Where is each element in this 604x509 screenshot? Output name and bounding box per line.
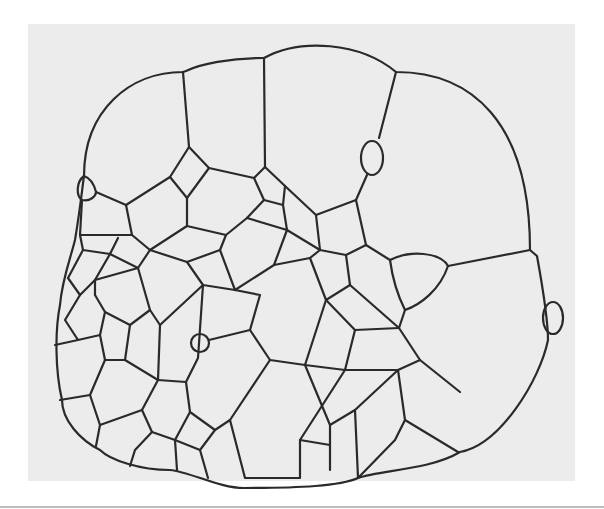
- wall: [287, 230, 320, 250]
- wall: [250, 300, 326, 365]
- wall: [96, 177, 170, 205]
- wall: [110, 250, 150, 268]
- wall: [405, 420, 458, 452]
- wall: [346, 245, 366, 285]
- wall: [355, 410, 358, 478]
- wall: [230, 370, 345, 478]
- wall: [345, 328, 420, 370]
- wall: [55, 340, 78, 345]
- wall: [186, 360, 270, 430]
- wall: [130, 432, 152, 466]
- wall: [209, 167, 265, 178]
- wall: [100, 325, 130, 360]
- wall: [183, 72, 189, 147]
- wall: [80, 205, 132, 235]
- wall: [350, 285, 399, 328]
- wall: [420, 360, 460, 392]
- outer-boundary: [56, 46, 548, 488]
- foam-cell-diagram: [0, 0, 604, 509]
- wall: [379, 72, 396, 138]
- wall: [96, 425, 100, 446]
- wall: [150, 235, 226, 262]
- wall: [356, 200, 366, 245]
- wall: [65, 295, 105, 340]
- wall: [170, 147, 209, 198]
- wall: [316, 215, 346, 255]
- wall: [366, 245, 390, 260]
- wall: [132, 198, 187, 250]
- wall: [60, 360, 105, 400]
- foam-edges: [55, 46, 563, 488]
- wall: [247, 205, 287, 230]
- wall: [142, 380, 158, 432]
- wall: [399, 310, 405, 328]
- wall: [390, 254, 448, 310]
- wall: [200, 430, 215, 478]
- wall: [285, 186, 356, 215]
- wall: [125, 325, 160, 380]
- wall: [90, 395, 142, 425]
- wall: [175, 440, 177, 470]
- wall: [80, 235, 118, 254]
- small-cell: [361, 141, 383, 175]
- wall: [105, 310, 150, 325]
- wall: [305, 330, 355, 370]
- wall: [235, 230, 287, 290]
- wall: [398, 370, 405, 420]
- wall: [160, 262, 203, 325]
- wall: [264, 58, 265, 167]
- wall: [274, 250, 320, 265]
- wall: [448, 250, 530, 266]
- wall: [326, 300, 399, 330]
- wall: [175, 440, 200, 450]
- wall: [68, 250, 110, 295]
- wall: [152, 412, 190, 440]
- wall: [310, 258, 350, 300]
- wall: [356, 175, 367, 200]
- wall: [158, 285, 203, 382]
- wall: [203, 250, 235, 290]
- wall: [187, 200, 264, 235]
